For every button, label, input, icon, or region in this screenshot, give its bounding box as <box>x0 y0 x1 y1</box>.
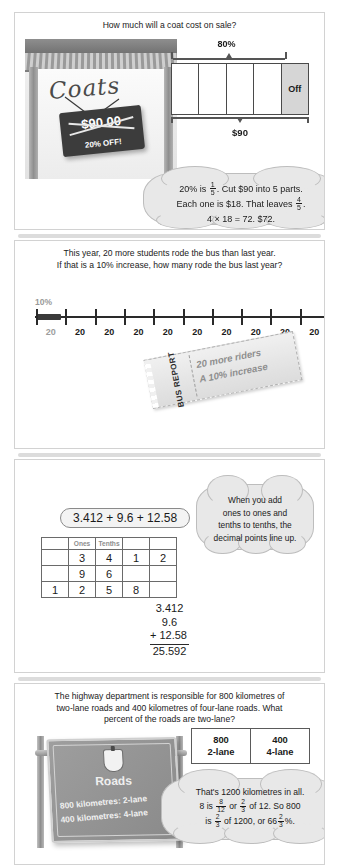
ticket-body: 20 more riders A 10% increase <box>195 339 293 386</box>
number-line-tick <box>300 309 302 325</box>
panel4-prompt-line2: two-lane roads and 400 kilometres of fou… <box>27 703 312 715</box>
c3-l3: tenths to tenths, the <box>204 519 306 532</box>
table-cell: 2 <box>69 582 96 598</box>
number-line-tick <box>36 309 38 325</box>
number-line-tick <box>270 309 272 325</box>
number-line-first-segment <box>37 314 61 320</box>
place-value-table: OnesTenths 3412961258 <box>41 537 177 598</box>
table-body: 3412961258 <box>42 550 177 598</box>
panel2-prompt-line1: This year, 20 more students rode the bus… <box>27 248 312 260</box>
panel4-prompt-line1: The highway department is responsible fo… <box>27 691 312 703</box>
table-row: 96 <box>42 566 177 582</box>
brace-bottom-icon <box>171 117 309 124</box>
c4-l3b: of 1200, or 66 <box>224 816 277 826</box>
bar-model-bars: Off <box>171 63 309 115</box>
lane-four-label: 4-lane <box>266 746 293 757</box>
panel1-prompt: How much will a coat cost on sale? <box>15 13 324 34</box>
table-cell: 1 <box>42 582 69 598</box>
table-column-header <box>42 538 69 550</box>
fraction-two-thirds-c: 2 3 <box>278 814 284 829</box>
table-column-header: Tenths <box>96 538 123 550</box>
sum-addend-3: + 12.58 <box>150 629 189 645</box>
lane-totals-table: 800 2-lane 400 4-lane <box>191 728 310 764</box>
panel-divider-2 <box>18 453 321 457</box>
table-cell: 9 <box>69 566 96 582</box>
c1-l2a: Each one is $18. That leaves <box>177 199 293 209</box>
table-cell: 1 <box>123 550 150 566</box>
panel-highway-percent: The highway department is responsible fo… <box>14 683 325 865</box>
number-line-percent-label: 10% <box>35 297 52 307</box>
panel4-prompt-line3: percent of the roads are two-lane? <box>27 714 312 726</box>
c4-l3c: %. <box>285 816 295 826</box>
panel-bus-riders: This year, 20 more students rode the bus… <box>14 240 325 449</box>
panel-decimal-addition: 3.412 + 9.6 + 12.58 OnesTenths 341296125… <box>14 459 325 673</box>
fraction-eight-twelfths: 8 12 <box>216 799 225 814</box>
thought-cloud-1: 20% is 1 5 . Cut $90 into 5 parts. Each … <box>143 173 325 225</box>
fraction-four-fifths: 4 5 <box>296 196 302 211</box>
c3-l4: decimal points line up. <box>204 532 306 545</box>
panel4-prompt: The highway department is responsible fo… <box>15 684 324 728</box>
table-cell: 4 <box>96 550 123 566</box>
lane-cell-four: 400 4-lane <box>251 729 310 764</box>
table-cell: 6 <box>96 566 123 582</box>
ticket-stub: BUS REPORT <box>155 355 197 403</box>
price-tag: $90.00 20% OFF! <box>59 105 145 157</box>
fraction-two-thirds-b: 2 3 <box>215 814 221 829</box>
bar-cell-shaded: Off <box>282 64 308 114</box>
lane-cell-two: 800 2-lane <box>192 729 251 764</box>
number-line-value: 20 <box>95 327 123 337</box>
cloud-4-text: That's 1200 kilometres in all. 8 is 8 12… <box>169 785 325 829</box>
number-line-tick <box>241 309 243 325</box>
table-header-row: OnesTenths <box>42 538 177 550</box>
table-column-header <box>123 538 150 550</box>
table-row: 800 2-lane 400 4-lane <box>192 729 310 764</box>
brace-top-icon <box>171 52 287 59</box>
c3-l2: ones to ones and <box>204 507 306 520</box>
number-line-tick <box>183 309 185 325</box>
panel-coat-sale: How much will a coat cost on sale? Coats… <box>14 12 325 230</box>
table-column-header: Ones <box>69 538 96 550</box>
table-row: 1258 <box>42 582 177 598</box>
c4-l2a: 8 is <box>200 801 213 811</box>
sum-total: 25.592 <box>15 645 324 659</box>
number-line-value: 20 <box>66 327 94 337</box>
cloud-3-text: When you add ones to ones and tenths to … <box>204 494 306 544</box>
table-cell: 3 <box>69 550 96 566</box>
c4-l2c: of 12. So 800 <box>249 801 300 811</box>
number-line-value: 20 <box>125 327 153 337</box>
thought-cloud-4: That's 1200 kilometres in all. 8 is 8 12… <box>161 778 325 840</box>
number-line-tick <box>153 309 155 325</box>
number-line-value: 20 <box>183 327 211 337</box>
c4-l2b: or <box>229 801 237 811</box>
fraction-one-fifth: 1 5 <box>210 181 216 196</box>
number-line-value: 20 <box>212 327 240 337</box>
vertical-sum: 3.412 9.6 + 12.58 25.592 <box>15 602 324 658</box>
table-cell: 2 <box>150 550 177 566</box>
bar-model-diagram: 80% Off $90 <box>167 39 312 149</box>
number-line-axis <box>35 316 325 318</box>
table-cell <box>42 550 69 566</box>
fraction-two-thirds-a: 2 3 <box>240 799 246 814</box>
c1-l3: 4 × 18 = 72. $72. <box>152 212 325 226</box>
sign-title: Roads <box>50 773 177 789</box>
c1-l1b: . Cut $90 into 5 parts. <box>217 184 303 194</box>
table-cell: 5 <box>96 582 123 598</box>
worksheet-sheet: How much will a coat cost on sale? Coats… <box>8 6 331 859</box>
c1-l1a: 20% is <box>179 184 206 194</box>
ticket-stub-text: BUS REPORT <box>166 351 186 408</box>
table-row: 3412 <box>42 550 177 566</box>
bar-cell <box>227 64 254 114</box>
c3-l1: When you add <box>204 494 306 507</box>
number-line-value: 20 <box>154 327 182 337</box>
panel2-prompt: This year, 20 more students rode the bus… <box>15 241 324 273</box>
tag-discount: 20% OFF! <box>62 135 144 153</box>
panel-divider-3 <box>18 677 321 681</box>
c4-l3a: is <box>205 816 211 826</box>
lane-four-value: 400 <box>272 734 288 745</box>
c4-l1: That's 1200 kilometres in all. <box>169 785 325 799</box>
store-pillar-left <box>29 67 38 179</box>
expression-pill: 3.412 + 9.6 + 12.58 <box>60 508 190 528</box>
number-line-value: 20 <box>37 327 65 337</box>
storefront-illustration: Coats $90.00 20% OFF! <box>25 39 177 179</box>
table-cell: 8 <box>123 582 150 598</box>
